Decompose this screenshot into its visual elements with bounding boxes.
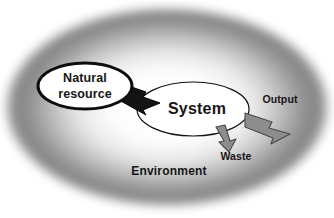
diagram-canvas: Natural resource System Output Waste Env…	[0, 0, 334, 218]
environment-label: Environment	[131, 164, 207, 178]
diagram-svg: Natural resource System Output Waste Env…	[0, 0, 334, 218]
natural-resource-label-line2: resource	[58, 87, 112, 101]
natural-resource-ellipse-shape	[38, 63, 132, 109]
natural-resource-node[interactable]	[38, 63, 132, 109]
natural-resource-label-line1: Natural	[63, 71, 107, 85]
system-label: System	[168, 100, 226, 117]
waste-label: Waste	[220, 150, 251, 162]
output-label: Output	[262, 93, 297, 105]
